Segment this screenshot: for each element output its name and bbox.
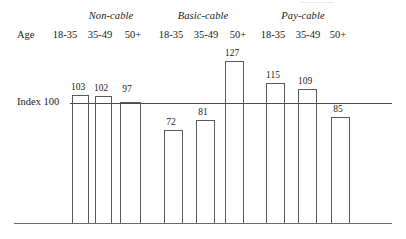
tick-label-pay-cable-35-49: 35-49 xyxy=(291,29,325,40)
group-title-pay-cable: Pay-cable xyxy=(262,10,344,21)
group-title-basic-cable: Basic-cable xyxy=(162,10,244,21)
bar-value-non-cable-50-plus: 97 xyxy=(112,84,142,94)
tick-label-pay-cable-18-35: 18-35 xyxy=(256,29,290,40)
page-scan-artifact xyxy=(300,2,334,3)
bar-non-cable-18-35 xyxy=(72,95,89,223)
tick-label-non-cable-35-49: 35-49 xyxy=(83,29,117,40)
bar-non-cable-35-49 xyxy=(95,96,112,223)
tick-label-non-cable-18-35: 18-35 xyxy=(48,29,82,40)
bar-basic-cable-50-plus xyxy=(225,61,244,223)
tick-label-basic-cable-50-plus: 50+ xyxy=(224,29,252,40)
bar-value-pay-cable-50-plus: 85 xyxy=(323,104,353,114)
baseline-axis xyxy=(14,223,392,224)
bar-value-pay-cable-35-49: 109 xyxy=(290,76,320,86)
bar-value-pay-cable-18-35: 115 xyxy=(258,70,288,80)
bar-chart-figure: Non-cable Basic-cable Pay-cable Age 18-3… xyxy=(0,0,406,239)
bar-value-basic-cable-18-35: 72 xyxy=(156,117,186,127)
bar-basic-cable-18-35 xyxy=(164,130,183,223)
bar-pay-cable-35-49 xyxy=(298,89,317,223)
tick-label-pay-cable-50-plus: 50+ xyxy=(324,29,352,40)
bar-pay-cable-18-35 xyxy=(266,83,285,223)
tick-label-basic-cable-35-49: 35-49 xyxy=(189,29,223,40)
bar-non-cable-50-plus xyxy=(120,102,141,223)
bar-basic-cable-35-49 xyxy=(196,120,215,223)
tick-label-non-cable-50-plus: 50+ xyxy=(119,29,147,40)
group-title-non-cable: Non-cable xyxy=(72,10,150,21)
tick-label-basic-cable-18-35: 18-35 xyxy=(154,29,188,40)
bar-value-basic-cable-35-49: 81 xyxy=(188,107,218,117)
age-axis-label: Age xyxy=(17,29,35,40)
index-reference-label: Index 100 xyxy=(17,96,59,107)
bar-value-basic-cable-50-plus: 127 xyxy=(217,48,247,58)
bar-pay-cable-50-plus xyxy=(331,117,350,223)
